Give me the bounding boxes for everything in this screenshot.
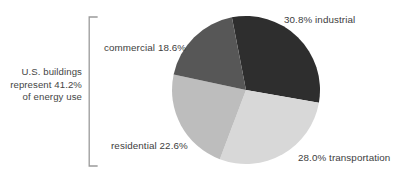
pie-label-residential: residential 22.6% [111, 140, 188, 152]
pie-label-transportation: 28.0% transportation [298, 152, 390, 164]
annotation-bracket-icon [86, 16, 98, 167]
annotation-line-3: of energy use [2, 91, 82, 104]
pie-label-commercial: commercial 18.6% [104, 42, 186, 54]
pie-chart-figure: U.S. buildings represent 41.2% of energy… [0, 0, 400, 182]
pie-label-industrial: 30.8% industrial [284, 14, 355, 26]
annotation-line-1: U.S. buildings [2, 66, 82, 79]
pie-graphic [170, 14, 324, 168]
annotation-line-2: represent 41.2% [2, 79, 82, 92]
annotation-text: U.S. buildings represent 41.2% of energy… [2, 66, 82, 104]
pie-svg [170, 14, 324, 168]
